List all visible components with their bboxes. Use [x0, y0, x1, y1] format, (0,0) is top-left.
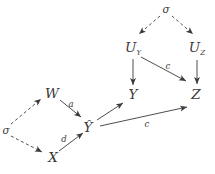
edge-sigma-top-to-u-y — [139, 16, 160, 34]
node-w: W — [45, 85, 60, 101]
edge-u-y-to-z — [141, 57, 186, 81]
node-z: Z — [190, 86, 201, 102]
edge-label-c-lower: c — [145, 119, 150, 129]
node-u-z-base: U — [189, 39, 201, 55]
node-u-y: UY — [125, 39, 142, 57]
node-sigma-top: σ — [162, 3, 170, 15]
edge-label-d: d — [61, 134, 67, 144]
node-y: Y — [129, 86, 139, 102]
node-u-z-subscript: Z — [199, 49, 205, 57]
node-u-z: UZ — [189, 39, 205, 57]
node-u-y-subscript: Y — [136, 49, 142, 57]
edge-label-a: a — [68, 99, 73, 109]
edge-sigma-left-to-w — [11, 99, 41, 124]
node-sigma-left: σ — [2, 124, 10, 136]
edge-sigma-top-to-u-z — [172, 16, 193, 34]
node-x: X — [47, 149, 59, 165]
diagram-canvas: a d c c σ UY UZ Y Z σ W X Ŷ — [0, 0, 215, 174]
edge-sigma-left-to-x — [11, 136, 42, 152]
edge-label-c-upper: c — [166, 61, 171, 71]
causal-diagram-svg: a d c c σ UY UZ Y Z σ W X Ŷ — [0, 0, 215, 174]
node-u-y-base: U — [125, 39, 137, 55]
edge-y-hat-to-y — [97, 103, 123, 120]
node-y-hat: Ŷ — [84, 119, 94, 135]
